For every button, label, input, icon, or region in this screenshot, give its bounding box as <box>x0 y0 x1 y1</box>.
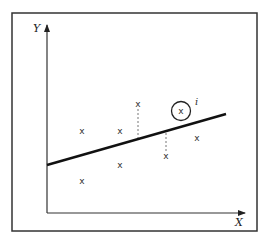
data-point-marker: x <box>194 133 200 143</box>
data-points: xxxxxxxix <box>79 96 200 186</box>
data-point-marker: x <box>178 106 184 116</box>
residual-lines <box>138 109 166 151</box>
data-point-marker: x <box>135 99 141 109</box>
data-point-marker: x <box>117 160 123 170</box>
point-index-label: i <box>195 96 198 107</box>
frame-border <box>12 13 257 231</box>
data-point-marker: x <box>79 126 85 136</box>
regression-diagram: Y X xxxxxxxix <box>0 0 270 245</box>
y-axis-label: Y <box>33 22 42 35</box>
x-axis-label: X <box>234 216 244 229</box>
data-point-marker: x <box>117 126 123 136</box>
data-point-marker: x <box>163 151 169 161</box>
data-point-marker: x <box>79 176 85 186</box>
